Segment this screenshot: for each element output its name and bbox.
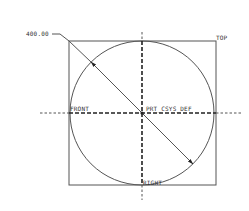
- dimension-value-label[interactable]: 400.00: [26, 30, 49, 37]
- sketch-canvas[interactable]: 400.00 TOP FRONT PRT_CSYS_DEF RIGHT: [0, 0, 249, 211]
- csys-label[interactable]: PRT_CSYS_DEF: [146, 105, 192, 113]
- dimension-leader: [52, 34, 69, 41]
- front-plane-label[interactable]: FRONT: [70, 105, 89, 112]
- csys-origin-icon[interactable]: [140, 111, 143, 114]
- dimension-extension: [69, 41, 91, 62]
- top-plane-label[interactable]: TOP: [216, 34, 228, 41]
- right-plane-label[interactable]: RIGHT: [143, 179, 162, 186]
